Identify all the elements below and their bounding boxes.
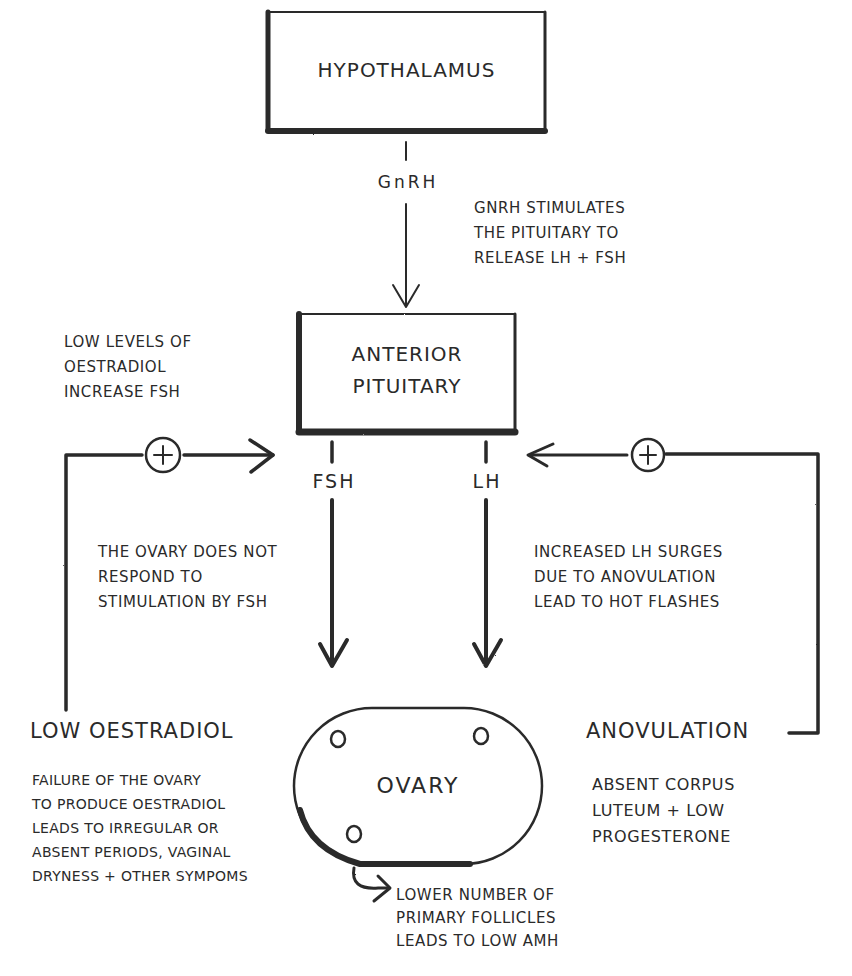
follicle-curved-arrow (354, 868, 391, 901)
ovary-label: OVARY (294, 772, 542, 800)
anterior-pituitary-label: ANTERIOR PITUITARY (299, 338, 515, 402)
fsh-note: THE OVARY DOES NOT RESPOND TO STIMULATIO… (98, 540, 277, 615)
left-plus-circle-icon (146, 438, 180, 472)
feedback-note: LOW LEVELS OF OESTRADIOL INCREASE FSH (64, 330, 192, 405)
anovulation-note: ABSENT CORPUS LUTEUM + LOW PROGESTERONE (592, 772, 735, 850)
lh-label: LH (464, 470, 510, 494)
anovulation-label: ANOVULATION (586, 718, 749, 744)
oestradiol-note: FAILURE OF THE OVARY TO PRODUCE OESTRADI… (32, 768, 248, 888)
gnrh-note: GnRH STIMULATES THE PITUITARY TO RELEASE… (474, 196, 626, 271)
gnrh-arrow (393, 142, 419, 307)
follicle-note: LOWER NUMBER OF PRIMARY FOLLICLES LEADS … (396, 884, 559, 953)
lh-note: INCREASED LH SURGES DUE TO ANOVULATION L… (534, 540, 723, 615)
right-plus-circle-icon (632, 439, 664, 471)
fsh-label: FSH (306, 470, 362, 494)
low-oestradiol-label: LOW OESTRADIOL (30, 718, 234, 744)
gnrh-label: GnRH (368, 172, 448, 193)
hypothalamus-label: HYPOTHALAMUS (268, 58, 545, 83)
